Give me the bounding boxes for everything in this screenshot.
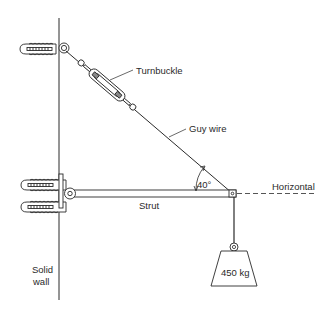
turnbuckle xyxy=(76,57,139,113)
turnbuckle-label: Turnbuckle xyxy=(136,66,183,76)
horizontal-label: Horizontal xyxy=(272,182,315,192)
top-wall-anchor xyxy=(20,43,69,55)
wall-label-line2: wall xyxy=(33,277,49,287)
turnbuckle-leader xyxy=(110,70,133,80)
guy-wire-leader xyxy=(169,129,186,137)
angle-label: 40° xyxy=(197,180,211,190)
wall-label-line1: Solid xyxy=(32,265,53,275)
lower-wall-anchors xyxy=(21,174,66,213)
strut-label: Strut xyxy=(139,201,159,211)
weight-label: 450 kg xyxy=(221,268,250,278)
guy-wire-label: Guy wire xyxy=(189,124,226,134)
